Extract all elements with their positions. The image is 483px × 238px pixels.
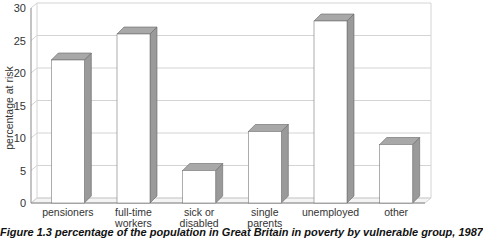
y-tick-label: 15	[14, 100, 26, 112]
y-tick-label: 25	[14, 35, 26, 47]
category-label: unemployed	[302, 206, 359, 218]
bar	[183, 164, 223, 204]
bar	[314, 14, 354, 203]
y-tick-label: 10	[14, 132, 26, 144]
y-tick-label: 30	[14, 2, 26, 14]
bar	[51, 53, 91, 203]
y-axis-label: percentage at risk	[3, 66, 15, 150]
bar	[380, 138, 420, 204]
y-tick-label: 5	[20, 165, 26, 177]
y-axis-ticks: 051015202530	[14, 2, 26, 209]
bar	[248, 125, 288, 204]
figure-caption: Figure 1.3 percentage of the population …	[0, 226, 438, 238]
y-tick-label: 20	[14, 67, 26, 79]
y-tick-label: 0	[20, 197, 26, 209]
bars	[51, 14, 419, 203]
bar	[117, 27, 157, 203]
category-label: pensioners	[42, 206, 93, 218]
category-label: other	[384, 206, 408, 218]
